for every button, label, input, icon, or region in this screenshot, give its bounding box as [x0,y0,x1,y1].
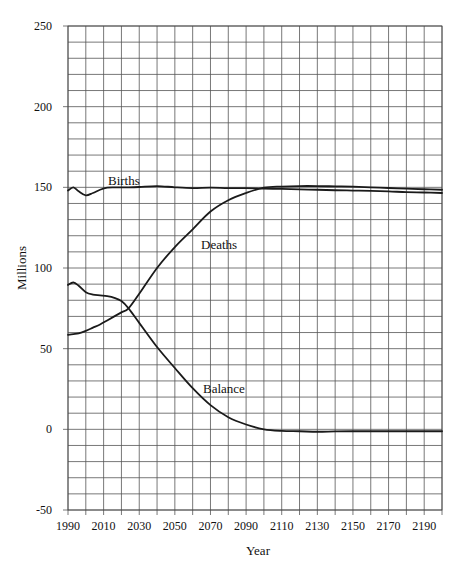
x-axis-ticks: 1990201020302050207020902110213021502170… [56,519,436,533]
balance-line [68,283,442,432]
x-tick-label: 2130 [305,519,329,533]
x-tick-label: 2110 [270,519,294,533]
balance-label: Balance [203,381,245,396]
x-tick-label: 1990 [56,519,80,533]
x-tick-label: 2150 [341,519,365,533]
x-tick-label: 2090 [234,519,258,533]
y-tick-label: 250 [34,19,52,33]
y-tick-label: 50 [40,342,52,356]
y-tick-label: -50 [36,503,52,517]
chart-series [68,186,442,432]
y-tick-label: 0 [46,422,52,436]
x-tick-label: 2030 [127,519,151,533]
x-axis-title: Year [246,543,271,558]
y-axis-ticks: 250200150100500-50 [34,19,52,517]
x-tick-label: 2050 [163,519,187,533]
chart-grid [63,26,442,515]
y-axis-title: Millions [14,246,29,290]
births-label: Births [108,173,140,188]
y-tick-label: 200 [34,100,52,114]
x-tick-label: 2170 [377,519,401,533]
deaths-line [68,186,442,335]
y-tick-label: 100 [34,261,52,275]
x-tick-label: 2190 [412,519,436,533]
x-tick-label: 2010 [92,519,116,533]
line-chart: 250200150100500-50 199020102030205020702… [0,0,458,573]
y-tick-label: 150 [34,180,52,194]
x-tick-label: 2070 [198,519,222,533]
deaths-label: Deaths [201,237,237,252]
